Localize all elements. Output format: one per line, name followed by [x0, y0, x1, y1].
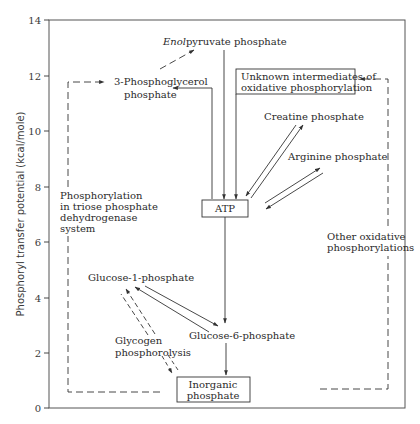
y-axis: 14 12 10 8 6 4 2 0 Phosphoryl transfer p… — [15, 15, 49, 414]
y-tick-2: 2 — [35, 348, 41, 359]
atp-to-phosphoglycerol-arrow — [173, 88, 212, 199]
glycogen-dashed-upper-2 — [121, 294, 148, 335]
svg-text:phosphate: phosphate — [187, 390, 240, 401]
svg-text:ATP: ATP — [214, 203, 235, 214]
svg-text:in triose phosphate: in triose phosphate — [60, 201, 158, 212]
node-unknown-intermediates: Unknown intermediates of oxidative phosp… — [236, 69, 377, 94]
atp-to-arginine-arrow — [265, 168, 320, 203]
y-axis-label: Phosphoryl transfer potential (kcal/mole… — [15, 111, 26, 316]
node-atp: ATP — [202, 200, 248, 217]
y-tick-4: 4 — [35, 293, 41, 304]
node-3-phosphoglycerol-line1: 3-Phosphoglycerol — [114, 76, 208, 87]
svg-text:oxidative phosphorylation: oxidative phosphorylation — [241, 82, 373, 93]
glucose1p-to-glucose6p-arrow — [145, 286, 218, 326]
annotation-other-oxidative-phosphorylations: Other oxidative phosphorylations — [326, 230, 414, 256]
arginine-to-atp-arrow — [266, 173, 323, 209]
svg-text:Other oxidative: Other oxidative — [327, 231, 406, 242]
y-tick-8: 8 — [35, 182, 41, 193]
node-3-phosphoglycerol-line2: phosphate — [124, 89, 177, 100]
svg-text:phosphorylations: phosphorylations — [327, 242, 414, 253]
glucose6p-to-glucose1p-arrow — [135, 287, 209, 332]
svg-text:system: system — [60, 223, 96, 234]
node-arginine-phosphate: Arginine phosphate — [287, 151, 388, 162]
glycogen-to-inorganic-dashed — [162, 356, 172, 373]
phosphoryl-transfer-diagram: 14 12 10 8 6 4 2 0 Phosphoryl transfer p… — [0, 0, 420, 424]
annotation-triose-phosphate-dehydrogenase: Phosphorylation in triose phosphate dehy… — [58, 188, 158, 236]
svg-text:dehydrogenase: dehydrogenase — [60, 212, 137, 223]
y-tick-14: 14 — [28, 15, 41, 26]
node-enolpyruvate-phosphate: Enolpyruvate phosphate — [162, 36, 287, 47]
annotation-glycogen-line2: phosphorolysis — [115, 347, 191, 358]
y-tick-6: 6 — [35, 237, 41, 248]
y-tick-10: 10 — [28, 126, 41, 137]
glycogen-to-glucose1p-dashed — [126, 289, 155, 334]
y-tick-12: 12 — [28, 71, 41, 82]
annotation-glycogen-line1: Glycogen — [115, 335, 163, 346]
node-inorganic-phosphate: Inorganic phosphate — [177, 377, 250, 402]
y-tick-0: 0 — [35, 403, 41, 414]
phosphoglycerol-to-enol-dashed — [160, 50, 194, 69]
svg-text:Phosphorylation: Phosphorylation — [60, 190, 143, 201]
svg-text:Unknown intermediates of: Unknown intermediates of — [241, 71, 377, 82]
svg-text:Inorganic: Inorganic — [189, 379, 238, 390]
node-glucose-1-phosphate: Glucose-1-phosphate — [88, 272, 194, 283]
node-glucose-6-phosphate: Glucose-6-phosphate — [189, 330, 295, 341]
node-creatine-phosphate: Creatine phosphate — [264, 111, 364, 122]
